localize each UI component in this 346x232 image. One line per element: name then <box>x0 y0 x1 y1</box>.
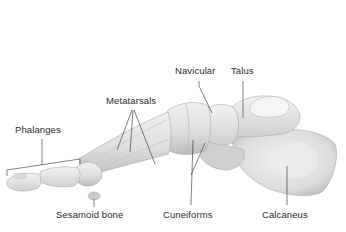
label-navicular: Navicular <box>175 65 216 76</box>
sesamoid-bone <box>88 192 100 200</box>
foot-skeleton-illustration <box>0 0 346 232</box>
label-talus: Talus <box>231 65 254 76</box>
label-calcaneus: Calcaneus <box>262 209 308 220</box>
label-cuneiforms: Cuneiforms <box>163 209 213 220</box>
proximal-phalanx <box>40 167 80 187</box>
phalanx-tuft <box>13 173 27 179</box>
calcaneus-highlight <box>274 142 318 178</box>
label-phalanges: Phalanges <box>15 124 61 135</box>
label-metatarsals: Metatarsals <box>106 95 156 106</box>
foot-bones-diagram: Phalanges Metatarsals Navicular Talus Se… <box>0 0 346 232</box>
label-sesamoid-bone: Sesamoid bone <box>56 209 123 220</box>
